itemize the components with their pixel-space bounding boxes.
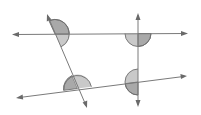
arrowhead-icon (181, 31, 188, 36)
angle-bottom-left (64, 74, 92, 90)
arrowhead-icon (136, 100, 141, 107)
arrowhead-icon (16, 95, 23, 100)
arrowhead-icon (180, 74, 187, 79)
arrowhead-icon (83, 100, 88, 108)
geometry-diagram (0, 0, 201, 115)
arrowhead-icon (12, 32, 19, 37)
top-line (14, 34, 186, 35)
angle-bottom-right (125, 69, 138, 95)
arrowhead-icon (136, 13, 141, 20)
bottom-line (18, 76, 185, 97)
